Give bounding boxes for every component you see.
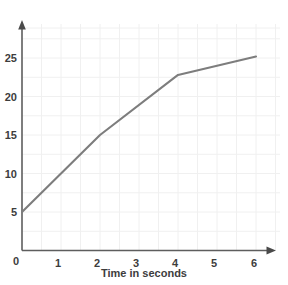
y-axis-tick-25: 25 (0, 53, 17, 64)
y-axis-tick-15: 15 (0, 130, 17, 141)
x-axis-tick-0: 0 (13, 256, 19, 267)
line-chart: 25 20 15 10 5 0 1 2 3 4 5 6 Time in seco… (0, 0, 288, 285)
x-axis-title: Time in seconds (0, 268, 288, 279)
chart-plot-area (0, 0, 288, 285)
y-axis-tick-20: 20 (0, 91, 17, 102)
y-axis-tick-5: 5 (0, 207, 17, 218)
y-axis-tick-10: 10 (0, 168, 17, 179)
x-axis (22, 247, 276, 255)
